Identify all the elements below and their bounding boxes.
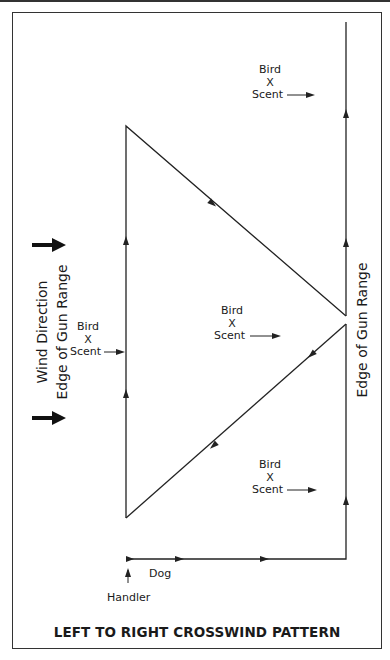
scent-marker-bottom: Bird X Scent [250, 459, 290, 497]
scent-label: Scent [207, 330, 252, 343]
wind-arrow-icon [32, 238, 66, 252]
scent-label: Scent [245, 89, 290, 102]
scent-marker-center: Bird X Scent [212, 305, 252, 343]
diagram-title: LEFT TO RIGHT CROSSWIND PATTERN [12, 624, 382, 640]
scent-label: Scent [63, 346, 108, 359]
scent-label: Scent [245, 484, 290, 497]
right-edge-of-gun-range-label: Edge of Gun Range [353, 260, 371, 400]
wind-direction-label: Wind Direction [33, 272, 51, 392]
bird-label: Bird [250, 459, 290, 472]
bird-label: Bird [250, 64, 290, 77]
bird-label: Bird [212, 305, 252, 318]
bird-label: Bird [68, 321, 108, 334]
handler-label: Handler [107, 591, 150, 604]
dog-path-bottom [126, 324, 346, 559]
scent-marker-top: Bird X Scent [250, 64, 290, 102]
wind-arrow-icon [32, 411, 66, 425]
dog-label: Dog [149, 567, 171, 580]
scent-marker-left: Bird X Scent [68, 321, 108, 359]
